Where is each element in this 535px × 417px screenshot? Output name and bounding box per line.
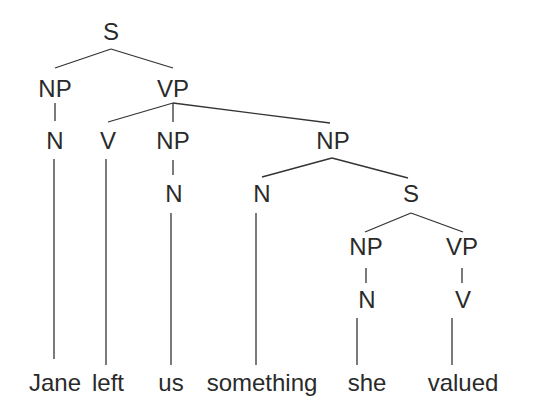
node-np-np2: NP [156,127,189,154]
node-np-np4: NP [349,233,382,260]
edge-np3-n3 [262,158,332,177]
node-np-np3: NP [316,127,349,154]
tree-edges [54,49,463,365]
edge-vp1-np3 [173,103,330,123]
sentence-words: Janeleftussomethingshevalued [29,369,498,396]
syntax-tree-diagram: SNPVPNVNPNPNNSNPVPNV Janeleftussomething… [0,0,535,417]
word-Jane: Jane [29,369,81,396]
edge-s0-vp1 [111,49,173,68]
edge-vp1-v1 [108,103,173,122]
edge-s1-np4 [365,213,411,232]
edge-s1-vp2 [411,213,463,232]
node-np-np1: NP [38,75,71,102]
word-valued: valued [428,369,499,396]
edge-s0-np1 [55,49,111,68]
node-n-n3: N [253,180,270,207]
node-n-n2: N [165,180,182,207]
node-v-v1: V [100,127,116,154]
tree-nodes: SNPVPNVNPNPNNSNPVPNV [38,18,478,313]
node-v-v2: V [455,286,471,313]
node-n-n1: N [46,127,63,154]
word-left: left [92,369,124,396]
word-she: she [348,369,387,396]
node-s-s0: S [103,18,119,45]
edge-np3-s1 [332,158,408,178]
node-s-s1: S [403,180,419,207]
node-vp-vp2: VP [446,233,478,260]
word-us: us [158,369,183,396]
word-something: something [207,369,318,396]
node-vp-vp1: VP [157,75,189,102]
node-n-n4: N [358,286,375,313]
